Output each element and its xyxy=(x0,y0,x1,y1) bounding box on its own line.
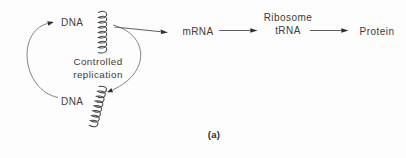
dna-top-label: DNA xyxy=(61,16,83,29)
ribosome-trna-label: Ribosome tRNA xyxy=(256,11,320,37)
figure-caption: (a) xyxy=(204,129,224,140)
controlled-replication-label: Controlled replication xyxy=(60,56,136,81)
replication-cycle-left-arc-icon xyxy=(27,21,58,97)
figure-canvas: DNA DNA Controlled replication mRNA Ribo… xyxy=(0,0,406,158)
dna-bottom-label: DNA xyxy=(61,95,83,108)
mrna-label: mRNA xyxy=(176,25,220,38)
dna-helix-top-icon xyxy=(99,11,107,53)
arrow-mrna-to-ribosome-icon xyxy=(219,28,258,33)
arrow-dna-to-mrna-icon xyxy=(115,27,169,34)
dna-helix-bottom-icon xyxy=(89,85,107,127)
protein-label: Protein xyxy=(355,25,399,38)
